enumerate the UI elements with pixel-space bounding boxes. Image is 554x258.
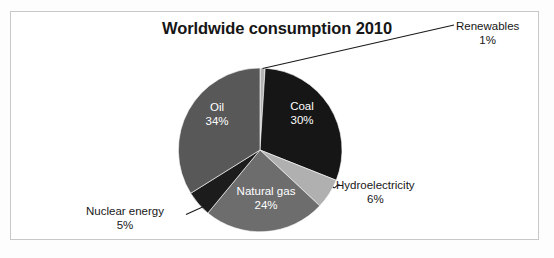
pie-label-coal: Coal 30% — [272, 99, 332, 127]
pie-label-natural-gas-name: Natural gas — [221, 184, 311, 198]
pie-label-coal-name: Coal — [272, 99, 332, 113]
chart-figure: Worldwide consumption 2010 Coal 30% Oil … — [0, 0, 554, 258]
chart-title: Worldwide consumption 2010 — [132, 19, 422, 38]
pie-callout-renewables-value: 1% — [456, 34, 519, 48]
pie-callout-hydroelectricity-value: 6% — [336, 193, 415, 207]
pie-label-oil: Oil 34% — [190, 100, 244, 128]
pie-label-oil-value: 34% — [190, 114, 244, 128]
pie-label-oil-name: Oil — [190, 100, 244, 114]
pie-label-coal-value: 30% — [272, 113, 332, 127]
pie-label-natural-gas: Natural gas 24% — [221, 184, 311, 212]
pie-callout-hydroelectricity: Hydroelectricity 6% — [336, 179, 415, 206]
pie-callout-hydroelectricity-name: Hydroelectricity — [336, 179, 415, 193]
pie-label-natural-gas-value: 24% — [221, 198, 311, 212]
pie-callout-renewables-name: Renewables — [456, 20, 519, 34]
pie-callout-nuclear-energy-name: Nuclear energy — [86, 205, 164, 219]
pie-callout-nuclear-energy-value: 5% — [86, 219, 164, 233]
pie-callout-nuclear-energy: Nuclear energy 5% — [86, 205, 164, 232]
pie-callout-renewables: Renewables 1% — [456, 20, 519, 47]
